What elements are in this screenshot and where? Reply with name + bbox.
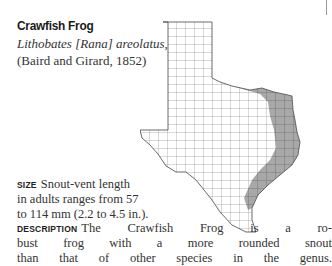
size-line-2: in adults ranges from 57 <box>17 192 139 207</box>
species-authority: (Baird and Girard, 1852) <box>17 53 146 69</box>
description-line-2: bust frog with a more rounded snout <box>17 236 332 251</box>
description-line-1: DESCRIPTIONThe Crawfish Frog is a ro- <box>17 221 332 236</box>
description-line-3: than that of other species in the genus. <box>17 251 332 266</box>
size-line-1: SIZESnout-vent length <box>17 177 130 192</box>
species-common-name: Crawfish Frog <box>17 18 93 33</box>
size-label: SIZE <box>17 180 37 190</box>
size-line-3: to 114 mm (2.2 to 4.5 in.). <box>17 207 148 222</box>
description-label: DESCRIPTION <box>17 224 77 234</box>
page-edge-line <box>326 0 327 15</box>
texas-range-map <box>140 20 310 235</box>
